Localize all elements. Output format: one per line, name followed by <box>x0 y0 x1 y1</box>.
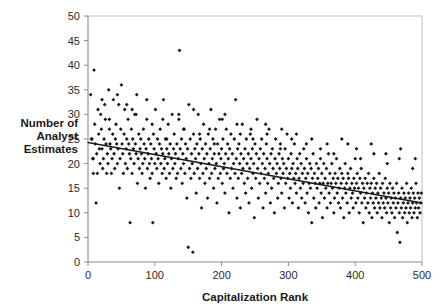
data-point <box>287 196 291 200</box>
data-point <box>201 172 205 176</box>
x-tick-label: 300 <box>279 269 297 281</box>
data-point <box>375 211 379 215</box>
data-point <box>115 142 119 146</box>
data-point <box>142 127 146 131</box>
data-point <box>391 201 395 205</box>
data-point <box>114 122 118 126</box>
data-point <box>260 162 264 166</box>
data-point <box>227 211 231 215</box>
data-point <box>172 147 176 151</box>
data-point <box>188 167 192 171</box>
data-point <box>323 196 327 200</box>
data-point <box>230 152 234 156</box>
data-point <box>97 132 101 136</box>
data-point <box>198 176 202 180</box>
data-point <box>363 196 367 200</box>
data-point <box>358 176 362 180</box>
data-point <box>345 181 349 185</box>
data-point <box>121 152 125 156</box>
data-point <box>235 122 239 126</box>
data-point <box>165 147 169 151</box>
data-point <box>144 186 148 190</box>
data-point <box>91 172 95 176</box>
data-point <box>134 142 138 146</box>
data-point <box>170 113 174 117</box>
data-point <box>240 122 244 126</box>
x-axis: 0100200300400500 <box>85 262 431 281</box>
data-point <box>194 191 198 195</box>
data-point <box>217 152 221 156</box>
data-point <box>250 147 254 151</box>
data-point <box>295 157 299 161</box>
data-point <box>95 172 99 176</box>
data-point <box>145 117 149 121</box>
data-point <box>303 167 307 171</box>
data-point <box>273 157 277 161</box>
data-point <box>293 142 297 146</box>
data-point <box>392 191 396 195</box>
data-point <box>153 162 157 166</box>
data-point <box>372 152 376 156</box>
data-point <box>383 176 387 180</box>
data-point <box>311 176 315 180</box>
data-point <box>145 98 149 102</box>
data-point <box>418 211 422 215</box>
data-point <box>408 196 412 200</box>
data-point <box>387 191 391 195</box>
data-point <box>395 231 399 235</box>
data-point <box>417 196 421 200</box>
data-point <box>338 167 342 171</box>
data-point <box>278 142 282 146</box>
data-point <box>181 152 185 156</box>
data-point <box>367 172 371 176</box>
data-point <box>298 152 302 156</box>
data-point <box>117 103 121 107</box>
data-point <box>365 181 369 185</box>
data-point <box>91 157 95 161</box>
data-point <box>316 176 320 180</box>
data-point <box>326 181 330 185</box>
data-point <box>118 157 122 161</box>
data-point <box>184 142 188 146</box>
data-point <box>127 142 131 146</box>
data-point <box>210 172 214 176</box>
data-point <box>301 172 305 176</box>
data-point <box>388 181 392 185</box>
data-point <box>399 147 403 151</box>
y-tick-label: 40 <box>68 59 80 71</box>
data-point <box>306 172 310 176</box>
data-point <box>146 167 150 171</box>
y-tick-label: 15 <box>68 182 80 194</box>
data-point <box>310 137 314 141</box>
data-point <box>364 206 368 210</box>
data-point <box>359 167 363 171</box>
data-point <box>416 191 420 195</box>
data-point <box>244 137 248 141</box>
data-point <box>405 221 409 225</box>
data-point <box>401 201 405 205</box>
data-point <box>369 196 373 200</box>
data-point <box>274 137 278 141</box>
data-point <box>325 167 329 171</box>
data-point <box>244 191 248 195</box>
data-point <box>143 157 147 161</box>
data-point <box>319 157 323 161</box>
data-point <box>354 201 358 205</box>
data-point <box>212 152 216 156</box>
data-point <box>130 172 134 176</box>
data-point <box>252 216 256 220</box>
data-point <box>340 137 344 141</box>
data-point <box>383 206 387 210</box>
data-point <box>346 142 350 146</box>
data-point <box>278 147 282 151</box>
data-point <box>107 117 111 121</box>
data-point <box>204 142 208 146</box>
data-point <box>190 152 194 156</box>
data-point <box>105 172 109 176</box>
data-point <box>399 206 403 210</box>
data-point <box>274 172 278 176</box>
data-point <box>350 181 354 185</box>
data-point <box>173 162 177 166</box>
data-point <box>389 206 393 210</box>
data-point <box>324 186 328 190</box>
